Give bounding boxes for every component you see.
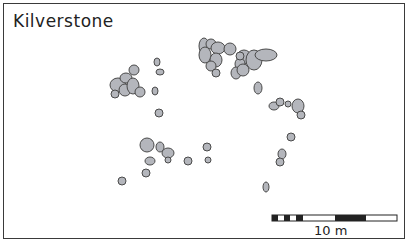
pit [263, 182, 269, 192]
pit [118, 177, 126, 185]
pit [165, 157, 171, 163]
pit-features [110, 38, 305, 192]
pit [276, 98, 284, 106]
pit [129, 65, 139, 75]
pit [142, 169, 150, 177]
pit [278, 149, 286, 159]
pit [237, 64, 249, 76]
pit [152, 87, 158, 95]
pit [212, 69, 220, 77]
pit [236, 52, 244, 60]
scale-bar [272, 215, 397, 221]
pit [135, 87, 145, 97]
pit [224, 43, 236, 55]
pit [203, 143, 211, 151]
pit [297, 111, 305, 119]
pit [145, 157, 155, 165]
pit [199, 47, 211, 63]
pit [156, 69, 164, 75]
pit [155, 109, 163, 117]
pit [276, 158, 284, 166]
pit [154, 58, 160, 66]
pit [287, 133, 295, 141]
pit [184, 157, 192, 165]
pit [111, 90, 119, 98]
pit [205, 157, 211, 163]
pit [140, 138, 154, 152]
site-plan [0, 0, 410, 244]
pit [285, 101, 291, 107]
scale-label: 10 m [314, 223, 347, 238]
pit [255, 49, 277, 61]
pit [211, 42, 225, 54]
pit [254, 82, 262, 94]
